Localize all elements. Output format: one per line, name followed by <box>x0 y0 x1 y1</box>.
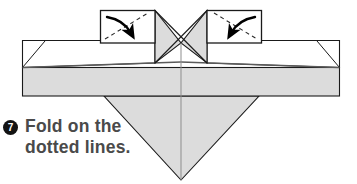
center-left-wedge <box>155 11 181 64</box>
right-callout-group <box>207 11 262 44</box>
center-right-wedge <box>181 11 207 64</box>
caption-text: Fold on the dotted lines. <box>25 116 131 158</box>
caption-line-1: Fold on the <box>25 116 131 137</box>
step-caption: 7 Fold on the dotted lines. <box>3 116 131 158</box>
origami-instruction-screenshot: 7 Fold on the dotted lines. <box>0 0 357 184</box>
step-number-bullet: 7 <box>3 120 18 135</box>
caption-line-2: dotted lines. <box>25 137 131 158</box>
step-number-label: 7 <box>3 120 18 135</box>
left-callout-group <box>101 11 156 44</box>
